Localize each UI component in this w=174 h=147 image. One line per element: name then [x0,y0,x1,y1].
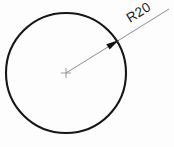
drawing-svg: R20 [0,0,174,147]
technical-drawing-canvas: R20 [0,0,174,147]
